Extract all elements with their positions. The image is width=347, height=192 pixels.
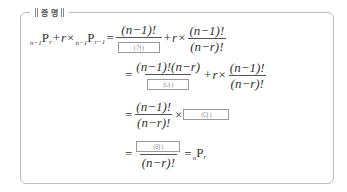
lhs-term2-presub: n−1 [75, 39, 87, 47]
line1-fraction1: (n−1)! (가) [116, 23, 162, 53]
lhs-term2-sub: r−1 [94, 38, 105, 46]
line3-numerator: (n−1)! [134, 100, 173, 114]
lhs-times: × [67, 30, 74, 45]
line1-frac1-numerator: (n−1)! [119, 23, 158, 37]
line3-equals: = [125, 107, 132, 123]
line1-fraction2: (n−1)! (n−r)! [187, 24, 226, 53]
lhs-term1-P: P [42, 30, 49, 45]
lhs-term1-presub: n−1 [30, 39, 42, 47]
lhs-expression: n−1Pr+r×n−1Pr−1 [30, 30, 105, 47]
line4-equals: = [125, 146, 132, 162]
line1-plus: + [164, 30, 171, 46]
proof-line-4: = (라) (n−r)! = nPr [124, 138, 206, 169]
line3-denominator: (n−r)! [135, 114, 172, 129]
title-bar-right [61, 8, 64, 17]
lhs-r: r [61, 30, 66, 45]
result-sub: r [203, 153, 206, 161]
line1-frac2-denominator: (n−r)! [188, 38, 225, 53]
title-bar-left [35, 8, 38, 17]
line1-r: r [172, 30, 177, 46]
line2-frac1-numerator: (n−1)!(n−r) [134, 60, 202, 74]
blank-box-ra: (라) [136, 141, 180, 152]
line4-fraction: (라) (n−r)! [134, 138, 182, 169]
proof-line-2: = (n−1)!(n−r) (나) + r × (n−1)! (n−r)! [124, 60, 268, 90]
line2-fraction2: (n−1)! (n−r)! [228, 61, 267, 90]
line1-times: × [178, 30, 185, 46]
proof-line-1: n−1Pr+r×n−1Pr−1 = (n−1)! (가) + r × (n−1)… [30, 23, 227, 53]
line3-fraction: (n−1)! (n−r)! [134, 100, 173, 129]
proof-title-tab: 증 명 [30, 5, 69, 19]
line2-fraction1: (n−1)!(n−r) (나) [134, 60, 202, 90]
blank-box-ga: (가) [118, 42, 160, 53]
line1-equals: = [106, 30, 113, 46]
blank-box-na: (나) [147, 79, 189, 90]
line1-frac2-numerator: (n−1)! [187, 24, 226, 38]
line2-times: × [219, 67, 226, 83]
line2-frac2-numerator: (n−1)! [228, 61, 267, 75]
line2-plus: + [204, 67, 211, 83]
lhs-plus: + [53, 30, 60, 45]
line4-denominator: (n−r)! [140, 154, 177, 169]
proof-title: 증 명 [41, 7, 58, 18]
proof-line-3: = (n−1)! (n−r)! × (다) [124, 100, 229, 129]
line2-frac2-denominator: (n−r)! [229, 75, 266, 90]
blank-box-da: (다) [183, 109, 229, 120]
line2-r: r [212, 67, 217, 83]
line4-equals-2: = [184, 146, 191, 162]
result-permutation: nPr [193, 145, 206, 162]
line2-equals: = [125, 67, 132, 83]
line3-times: × [175, 107, 182, 123]
lhs-term1-sub: r [49, 38, 52, 46]
